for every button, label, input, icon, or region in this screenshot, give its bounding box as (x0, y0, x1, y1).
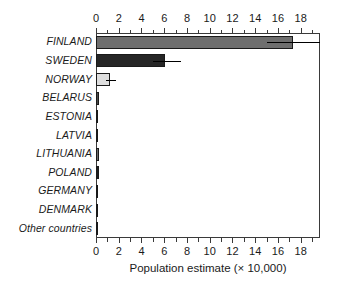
axis-tick-label: 12 (226, 245, 238, 258)
bar (96, 148, 99, 161)
axis-tick-major (187, 238, 188, 243)
category-label: LATVIA (0, 130, 92, 141)
category-label: BELARUS (0, 92, 92, 103)
axis-tick-label: 10 (204, 245, 216, 258)
bar-row (96, 219, 320, 238)
axis-tick-label: 10 (204, 12, 216, 25)
category-label: Other countries (0, 223, 92, 234)
axis-tick-label: 8 (184, 12, 190, 25)
axis-tick-minor (107, 238, 108, 242)
x-axis-title: Population estimate (× 10,000) (96, 261, 320, 275)
bar (96, 166, 99, 179)
category-label: GERMANY (0, 185, 92, 196)
axis-tick-label: 14 (249, 12, 261, 25)
bar (96, 110, 98, 123)
axis-tick-major (301, 238, 302, 243)
axis-tick-major (232, 238, 233, 243)
bar-row (96, 89, 320, 108)
axis-tick-label: 0 (93, 245, 99, 258)
category-label: FINLAND (0, 36, 92, 47)
top-axis-tick-labels: 024681012141618 (96, 12, 320, 26)
bottom-axis-tick-labels: 024681012141618 (96, 245, 320, 259)
bar-row (96, 33, 320, 52)
error-bar (106, 80, 116, 81)
axis-tick-major (210, 238, 211, 243)
bar-row (96, 145, 320, 164)
bar (96, 129, 98, 142)
bar (96, 185, 98, 198)
axis-tick-label: 6 (161, 245, 167, 258)
axis-tick-label: 2 (116, 245, 122, 258)
axis-tick-label: 18 (295, 245, 307, 258)
bar-chart-figure: 024681012141618 FINLANDSWEDENNORWAYBELAR… (0, 0, 342, 285)
bar (96, 92, 99, 105)
axis-tick-minor (221, 238, 222, 242)
bar-row (96, 201, 320, 220)
axis-tick-major (164, 238, 165, 243)
bar-row (96, 182, 320, 201)
bar (96, 222, 98, 235)
axis-tick-label: 14 (249, 245, 261, 258)
bar (96, 204, 98, 217)
axis-tick-major (119, 238, 120, 243)
axis-tick-minor (267, 238, 268, 242)
category-label: NORWAY (0, 74, 92, 85)
axis-tick-major (255, 238, 256, 243)
axis-tick-label: 8 (184, 245, 190, 258)
bar-row (96, 163, 320, 182)
error-bar (153, 61, 181, 62)
category-label: ESTONIA (0, 111, 92, 122)
axis-tick-label: 4 (138, 12, 144, 25)
axis-tick-minor (312, 238, 313, 242)
axis-tick-label: 18 (295, 12, 307, 25)
axis-tick-minor (130, 238, 131, 242)
axis-tick-major (141, 238, 142, 243)
axis-tick-minor (198, 238, 199, 242)
axis-tick-minor (176, 238, 177, 242)
bar-row (96, 70, 320, 89)
bar-series (96, 33, 320, 238)
axis-tick-label: 4 (138, 245, 144, 258)
category-label: LITHUANIA (0, 148, 92, 159)
bar (96, 36, 293, 49)
axis-tick-major (278, 238, 279, 243)
category-label: DENMARK (0, 204, 92, 215)
bottom-axis-ticks (96, 238, 320, 244)
category-label: SWEDEN (0, 55, 92, 66)
category-axis-labels: FINLANDSWEDENNORWAYBELARUSESTONIALATVIAL… (0, 33, 92, 238)
axis-tick-label: 12 (226, 12, 238, 25)
axis-tick-label: 6 (161, 12, 167, 25)
axis-tick-label: 2 (116, 12, 122, 25)
axis-tick-minor (153, 238, 154, 242)
axis-tick-label: 0 (93, 12, 99, 25)
bar-row (96, 108, 320, 127)
axis-tick-minor (289, 238, 290, 242)
axis-tick-label: 16 (272, 245, 284, 258)
error-bar (267, 42, 320, 43)
category-label: POLAND (0, 167, 92, 178)
bar-row (96, 126, 320, 145)
bar-row (96, 52, 320, 71)
axis-tick-major (96, 238, 97, 243)
axis-tick-minor (244, 238, 245, 242)
axis-tick-label: 16 (272, 12, 284, 25)
